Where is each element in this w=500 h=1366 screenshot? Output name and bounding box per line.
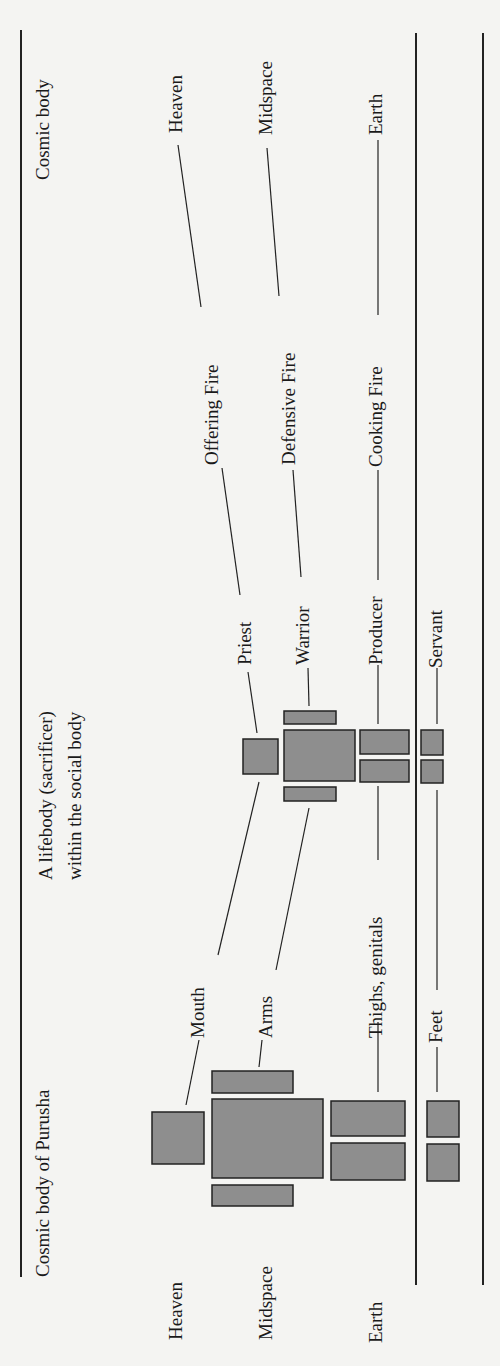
right-earth-label: Earth [366, 94, 385, 135]
header-cosmic-body-of-purusha: Cosmic body of Purusha [33, 1090, 52, 1277]
sacrificer-head [243, 739, 278, 774]
line-mouth-sacrificer-head [218, 782, 259, 955]
part-thighs-label: Thighs, genitals [366, 917, 385, 1038]
role-warrior-label: Warrior [293, 606, 312, 665]
sacrificer-foot-lower [421, 760, 443, 783]
role-servant-label: Servant [426, 610, 445, 668]
sacrificer-thigh-upper [360, 730, 409, 754]
fire-offering-label: Offering Fire [202, 365, 221, 465]
line-warrior-defensive [293, 470, 301, 577]
role-priest-label: Priest [235, 622, 254, 665]
left-heaven-label: Heaven [166, 1282, 185, 1340]
fire-cooking-label: Cooking Fire [366, 366, 385, 467]
purusha-arm-lower [212, 1185, 293, 1206]
purusha-thigh-upper [331, 1101, 405, 1136]
left-midspace-label: Midspace [256, 1266, 275, 1340]
purusha-figure [152, 1071, 459, 1206]
purusha-torso [212, 1099, 323, 1178]
right-heaven-label: Heaven [166, 75, 185, 133]
header-lifebody-line1: A lifebody (sacrificer) [36, 711, 55, 880]
line-priest-offering [222, 468, 240, 595]
part-feet-label: Feet [426, 1010, 445, 1043]
line-offering-heaven [178, 145, 201, 307]
purusha-head [152, 1112, 204, 1164]
sacrificer-arm-upper [284, 711, 336, 724]
line-arm-warrior [308, 668, 309, 706]
figure-graphics [0, 0, 500, 1366]
part-arms-label: Arms [256, 996, 275, 1038]
purusha-foot-lower [427, 1144, 459, 1181]
sacrificer-thigh-lower [360, 760, 409, 782]
sacrificer-foot-upper [421, 730, 443, 755]
left-earth-label: Earth [366, 1302, 385, 1343]
part-mouth-label: Mouth [188, 987, 207, 1038]
role-producer-label: Producer [366, 596, 385, 665]
line-arm-arms [259, 1040, 262, 1067]
sacrificer-figure [243, 711, 443, 801]
purusha-arm-upper [212, 1071, 293, 1093]
fire-defensive-label: Defensive Fire [279, 353, 298, 465]
line-head-priest [248, 672, 257, 733]
line-arms-sacrificer-arm [276, 808, 309, 970]
header-lifebody-line2: within the social body [65, 712, 84, 880]
sacrificer-arm-lower [284, 787, 336, 801]
purusha-diagram: Cosmic body of Purusha A lifebody (sacri… [0, 0, 500, 1366]
line-defensive-midspace [267, 148, 279, 296]
header-cosmic-body: Cosmic body [33, 79, 52, 180]
purusha-foot-upper [427, 1101, 459, 1137]
line-head-mouth [186, 1040, 199, 1105]
sacrificer-torso [284, 730, 355, 781]
right-midspace-label: Midspace [256, 61, 275, 135]
purusha-thigh-lower [331, 1143, 405, 1180]
